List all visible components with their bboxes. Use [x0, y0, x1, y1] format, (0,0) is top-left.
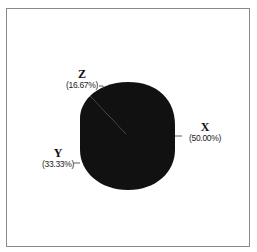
- pie-seam-fill: [126, 84, 130, 188]
- label-z-name: Z: [64, 68, 100, 80]
- label-z: Z (16.67%): [64, 68, 100, 90]
- pie-slice-x: [128, 82, 175, 190]
- label-x: X (50.00%): [187, 121, 223, 143]
- label-z-percent: (16.67%): [64, 81, 100, 90]
- label-y-name: Y: [40, 147, 76, 159]
- label-y: Y (33.33%): [40, 147, 76, 169]
- label-x-name: X: [187, 121, 223, 133]
- label-y-percent: (33.33%): [40, 160, 76, 169]
- label-x-percent: (50.00%): [187, 134, 223, 143]
